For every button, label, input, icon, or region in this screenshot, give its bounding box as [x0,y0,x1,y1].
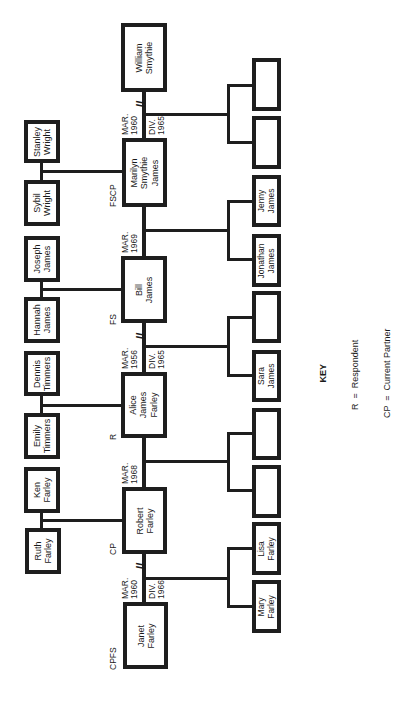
person-name: Mary Farley [257,595,277,619]
person-name: Ken Farley [32,477,53,502]
person-name: Janet Farley [135,623,156,648]
person-dennis-timmers: Dennis Timmers [24,351,60,396]
wright-to-marilyn-line [40,170,123,173]
children-bracket-1 [227,84,230,143]
person-name: William Smythie [134,41,155,74]
person-name: Jenny James [257,188,277,213]
children-line-2 [144,229,230,232]
person-sara: Sara James [252,350,281,402]
children-tick-2a [227,200,254,203]
children-line-3 [144,345,230,348]
person-name: Alice James Farley [128,392,159,419]
person-name: Bill James [134,276,155,303]
role-label-alice: R [109,434,118,440]
children-bracket-2 [227,200,230,261]
person-stanley-wright: Stanley Wright [24,120,60,163]
person-name: Ruth Farley [33,538,54,563]
timmers-to-alice-line [40,404,123,407]
person-name: Lisa Farley [257,537,277,561]
person-lisa: Lisa Farley [252,522,281,575]
person-name: Emily Timmers [32,419,53,454]
legend: KEY R = Respondent CP = Current Partner [296,328,395,418]
person-name: Dennis Timmers [32,356,53,391]
farley-to-robert-line [40,519,123,522]
children-tick-2b [227,258,254,261]
person-william-smythie: William Smythie [121,23,167,92]
child-empty-4 [252,408,281,460]
role-label-bill: FS [109,314,118,325]
person-ken-farley: Ken Farley [24,467,60,513]
person-mary: Mary Farley [252,580,281,633]
legend-title: KEY [318,364,328,383]
role-label-marilyn: FSCP [109,184,118,207]
person-name: Sara James [257,363,277,388]
divorce-mark-icon: // [135,563,147,570]
child-empty-2 [252,116,281,169]
person-name: Stanley Wright [32,126,53,156]
person-name: Jonathan James [257,243,277,278]
children-tick-3a [227,316,254,319]
legend-item-current-partner: CP = Current Partner [382,328,393,418]
children-tick-5a [227,547,254,550]
child-empty-5 [252,465,281,518]
marriage-label: MAR. 1960 [121,578,140,599]
children-tick-4a [227,432,254,435]
person-ruth-farley: Ruth Farley [25,528,61,574]
person-joseph-james: Joseph James [24,236,60,282]
person-emily-timmers: Emily Timmers [24,413,60,459]
divorce-label: DIV. 1965 [148,116,167,135]
person-janet: Janet Farley [123,602,168,669]
person-alice: Alice James Farley [121,372,167,438]
person-name: Sybil Wright [32,190,53,216]
child-empty-3 [252,291,281,343]
person-name: Joseph James [32,244,53,273]
divorce-mark-icon: // [135,333,147,340]
children-tick-5b [227,605,254,608]
person-marilyn: Marilyn Smythie James [122,138,167,207]
james-to-bill-line [40,288,123,291]
role-label-janet: CPFS [109,647,118,670]
marriage-label: MAR. 1960 [121,114,140,135]
children-tick-1a [227,84,254,87]
person-sybil-wright: Sybil Wright [24,180,60,226]
person-jonathan: Jonathan James [252,234,281,287]
person-name: Marilyn Smythie James [129,156,160,189]
children-tick-3b [227,374,254,377]
marriage-label: MAR. 1968 [121,463,140,484]
children-bracket-5 [227,547,230,608]
marriage-label: MAR. 1956 [121,348,140,369]
divorce-mark-icon: // [135,101,147,108]
children-bracket-4 [227,432,230,492]
children-tick-1b [227,141,254,144]
role-label-robert: CP [109,543,118,555]
child-empty-1 [252,58,281,111]
children-tick-4b [227,489,254,492]
person-bill: Bill James [121,256,167,323]
person-name: Hannah James [32,304,53,336]
marriage-label: MAR. 1969 [121,232,140,253]
person-robert: Robert Farley [122,487,167,554]
legend-item-respondent: R = Respondent [350,328,361,418]
children-bracket-3 [227,316,230,377]
person-name: Robert Farley [134,507,155,534]
person-hannah-james: Hannah James [24,297,60,343]
person-jenny: Jenny James [252,175,281,227]
divorce-label: DIV. 1966 [148,580,167,599]
children-line-4 [144,460,230,463]
divorce-label: DIV. 1965 [148,350,167,369]
